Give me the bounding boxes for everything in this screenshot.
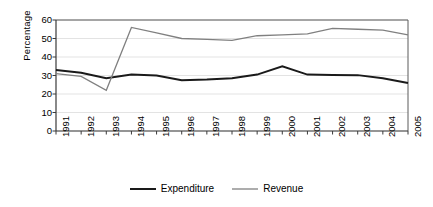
- legend-label: Revenue: [263, 183, 303, 194]
- x-tick-label: 1996: [186, 116, 196, 137]
- x-tick-label: 2001: [312, 116, 322, 137]
- x-axis-tick-labels: 1991199219931994199519961997199819992000…: [0, 0, 433, 207]
- x-tick-label: 1995: [161, 116, 171, 137]
- legend-item-expenditure[interactable]: Expenditure: [130, 183, 214, 194]
- line-chart: Percentage 0102030405060 199119921993199…: [0, 0, 433, 207]
- legend-label: Expenditure: [161, 183, 214, 194]
- x-tick-label: 1998: [237, 116, 247, 137]
- x-tick-label: 1993: [111, 116, 121, 137]
- x-tick-label: 1992: [86, 116, 96, 137]
- x-tick-label: 1994: [136, 116, 146, 137]
- x-tick-label: 2004: [387, 116, 397, 137]
- x-tick-label: 2005: [413, 116, 423, 137]
- x-tick-label: 2000: [287, 116, 297, 137]
- x-tick-label: 2003: [362, 116, 372, 137]
- x-tick-label: 1991: [61, 116, 71, 137]
- legend-swatch-expenditure: [130, 185, 156, 193]
- legend-item-revenue[interactable]: Revenue: [232, 183, 303, 194]
- legend-swatch-revenue: [232, 185, 258, 193]
- x-tick-label: 1997: [211, 116, 221, 137]
- chart-legend: ExpenditureRevenue: [0, 183, 433, 194]
- x-tick-label: 2002: [337, 116, 347, 137]
- x-tick-label: 1999: [262, 116, 272, 137]
